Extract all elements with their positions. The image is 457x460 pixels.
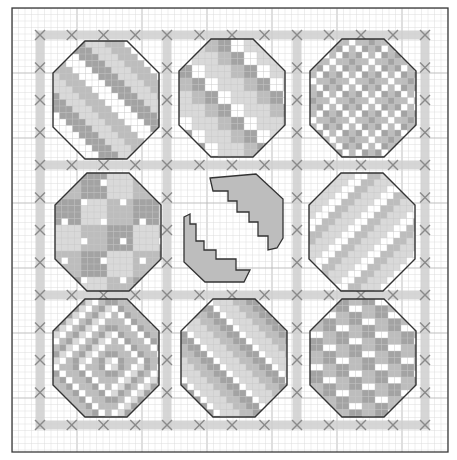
shell-fragment-2 [184,214,250,282]
eggs-layer [53,39,421,423]
egg-2 [179,39,290,163]
egg-6 [309,173,420,297]
egg-9 [310,299,421,423]
cross-stitch-chart [0,0,457,460]
egg-4 [55,173,166,297]
egg-8 [181,299,292,423]
egg-7 [53,299,164,423]
egg-1 [53,41,164,165]
egg-3 [310,39,421,163]
